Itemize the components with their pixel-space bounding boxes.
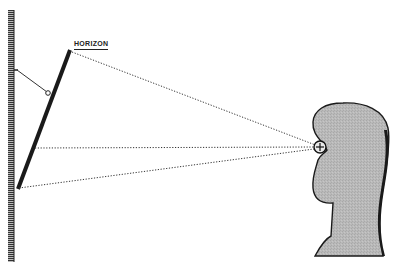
mirror: [18, 50, 70, 189]
sightlines: [19, 52, 318, 188]
observer-head: [313, 103, 389, 256]
wall: [8, 10, 14, 262]
eye-icon: [314, 141, 326, 153]
diagram-canvas: [0, 0, 397, 267]
support-rod: [14, 70, 50, 95]
sightline-horizon: [72, 52, 318, 146]
pivot-icon: [46, 91, 51, 96]
sightline-bottom: [19, 149, 314, 188]
sightline-horizontal: [35, 147, 314, 148]
horizon-label: HORIZON: [74, 40, 108, 50]
